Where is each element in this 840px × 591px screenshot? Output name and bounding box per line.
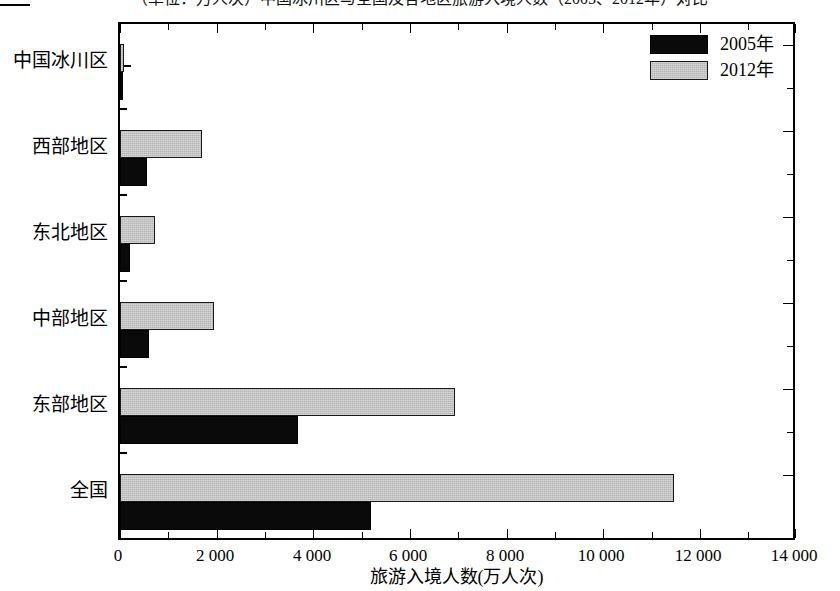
y-tick-right-5 <box>783 217 793 218</box>
chart-legend: 2005年 2012年 <box>650 31 788 83</box>
y-tick-left-bound-4 <box>120 366 127 368</box>
x-tick-label-12000: 12 000 <box>675 546 722 566</box>
x-tick-label-10000: 10 000 <box>578 546 625 566</box>
x-tick-top-5000 <box>362 24 363 30</box>
x-tick-top-6000 <box>410 24 411 33</box>
y-tick-left-bound-1 <box>120 108 127 110</box>
bar-2005-东北地区 <box>120 244 130 272</box>
bar-2012-全国 <box>120 474 674 502</box>
x-tick-top-4000 <box>313 24 314 33</box>
bar-2005-东部地区 <box>120 416 298 444</box>
bar-2005-全国 <box>120 502 371 530</box>
bar-2012-东北地区 <box>120 216 155 244</box>
legend-entry-2012: 2012年 <box>650 57 788 83</box>
legend-swatch-black-icon <box>650 35 708 54</box>
plot-area <box>118 22 795 540</box>
y-tick-right-3 <box>783 131 793 132</box>
y-tick-right-8 <box>787 346 793 347</box>
x-tick-top-1000 <box>168 24 169 30</box>
x-tick-top-0 <box>120 24 121 33</box>
x-tick-top-2000 <box>217 24 218 33</box>
x-tick-bottom-4000 <box>313 529 314 538</box>
x-tick-label-8000: 8 000 <box>486 546 524 566</box>
y-tick-right-2 <box>787 88 793 89</box>
x-tick-top-9000 <box>555 24 556 30</box>
x-tick-bottom-3000 <box>265 532 266 538</box>
x-tick-bottom-2000 <box>217 529 218 538</box>
x-tick-label-4000: 4 000 <box>293 546 331 566</box>
y-label-cat-0: 中国冰川区 <box>0 50 108 72</box>
y-tick-right-9 <box>783 389 793 390</box>
x-tick-bottom-9000 <box>555 532 556 538</box>
x-tick-bottom-11000 <box>652 532 653 538</box>
legend-label-2005: 2005年 <box>720 34 774 54</box>
y-label-cat-5: 全国 <box>0 480 108 502</box>
figure-title-clipped: （单位：万人次）中国冰川区与全国及各地区旅游入境人数（2005、2012年）对比 <box>0 0 840 14</box>
x-tick-bottom-14000 <box>795 529 796 538</box>
x-tick-top-8000 <box>507 24 508 33</box>
x-tick-top-13000 <box>748 24 749 30</box>
y-tick-left-bound-2 <box>120 194 127 196</box>
x-tick-top-10000 <box>603 24 604 33</box>
x-tick-bottom-13000 <box>748 532 749 538</box>
x-tick-label-6000: 6 000 <box>389 546 427 566</box>
y-tick-right-6 <box>787 260 793 261</box>
x-tick-bottom-12000 <box>700 529 701 538</box>
legend-entry-2005: 2005年 <box>650 31 788 57</box>
y-tick-left-bound-5 <box>120 452 127 454</box>
y-tick-left-bound-3 <box>120 280 127 282</box>
legend-label-2012: 2012年 <box>720 60 774 80</box>
x-tick-bottom-0 <box>120 529 121 538</box>
y-label-cat-4: 东部地区 <box>0 394 108 416</box>
x-axis-title: 旅游入境人数(万人次) <box>118 566 795 588</box>
x-tick-top-3000 <box>265 24 266 30</box>
bar-2012-中部地区 <box>120 302 214 330</box>
y-tick-right-11 <box>783 475 793 476</box>
figure-title-text: （单位：万人次）中国冰川区与全国及各地区旅游入境人数（2005、2012年）对比 <box>0 0 840 8</box>
x-tick-bottom-10000 <box>603 529 604 538</box>
y-tick-right-7 <box>783 303 793 304</box>
x-tick-bottom-6000 <box>410 529 411 538</box>
y-tick-right-10 <box>787 432 793 433</box>
x-tick-label-2000: 2 000 <box>196 546 234 566</box>
x-tick-bottom-1000 <box>168 532 169 538</box>
x-tick-bottom-5000 <box>362 532 363 538</box>
bar-2012-西部地区 <box>120 130 202 158</box>
y-label-cat-1: 西部地区 <box>0 136 108 158</box>
x-tick-top-7000 <box>458 24 459 30</box>
x-tick-label-14000: 14 000 <box>771 546 818 566</box>
y-label-cat-2: 东北地区 <box>0 222 108 244</box>
bar-2005-西部地区 <box>120 158 147 186</box>
y-tick-right-4 <box>787 174 793 175</box>
x-tick-bottom-8000 <box>507 529 508 538</box>
bar-2012-东部地区 <box>120 388 455 416</box>
bar-2012-中国冰川区 <box>120 44 124 72</box>
y-label-cat-3: 中部地区 <box>0 308 108 330</box>
chart-figure: （单位：万人次）中国冰川区与全国及各地区旅游入境人数（2005、2012年）对比 <box>0 0 840 591</box>
legend-swatch-gray-icon <box>650 61 708 80</box>
bar-2005-中部地区 <box>120 330 149 358</box>
x-tick-top-14000 <box>795 24 796 33</box>
x-tick-bottom-7000 <box>458 532 459 538</box>
bar-2005-中国冰川区 <box>120 72 123 100</box>
x-tick-label-0: 0 <box>114 546 123 566</box>
x-tick-top-11000 <box>652 24 653 30</box>
